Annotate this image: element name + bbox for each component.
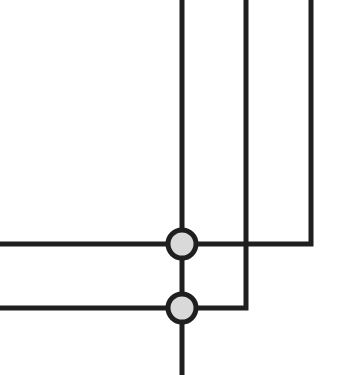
wire-diagram [0, 0, 344, 375]
junction-upper [168, 230, 196, 258]
junction-lower [168, 294, 196, 322]
